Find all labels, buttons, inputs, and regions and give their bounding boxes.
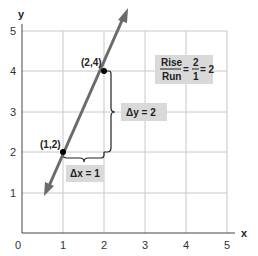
point-2-4	[101, 68, 107, 74]
y-axis-label: y	[18, 8, 25, 20]
svg-text:1: 1	[60, 239, 66, 251]
svg-text:2: 2	[10, 146, 16, 158]
svg-text:2: 2	[101, 239, 107, 251]
point-1-2-label: (1,2)	[40, 139, 61, 150]
y-tick-labels: 1 2 3 4 5	[10, 25, 16, 199]
delta-y-label: Δy = 2	[126, 107, 156, 118]
x-tick-labels: 0 1 2 3 4 5	[15, 239, 230, 251]
svg-text:=: =	[183, 64, 189, 75]
point-1-2	[60, 149, 66, 155]
svg-text:0: 0	[15, 239, 21, 251]
svg-text:1: 1	[10, 187, 16, 199]
svg-text:5: 5	[10, 25, 16, 37]
delta-x-label: Δx = 1	[70, 168, 100, 179]
svg-text:4: 4	[183, 239, 189, 251]
svg-text:2: 2	[193, 57, 199, 68]
x-axis-label: x	[241, 227, 248, 239]
svg-text:Rise: Rise	[161, 57, 183, 68]
delta-x-brace	[63, 152, 104, 162]
arrow-up-icon	[118, 8, 128, 23]
svg-text:5: 5	[224, 239, 230, 251]
slope-diagram: 0 1 2 3 4 5 1 2 3 4 5 y x Δy = 2 Δx = 1 …	[0, 0, 258, 256]
svg-text:3: 3	[142, 239, 148, 251]
svg-text:4: 4	[10, 65, 16, 77]
point-2-4-label: (2,4)	[81, 57, 102, 68]
svg-text:Run: Run	[162, 71, 181, 82]
svg-text:3: 3	[10, 106, 16, 118]
svg-text:1: 1	[193, 71, 199, 82]
arrow-down-icon	[44, 182, 54, 196]
svg-text:= 2: = 2	[200, 64, 215, 75]
